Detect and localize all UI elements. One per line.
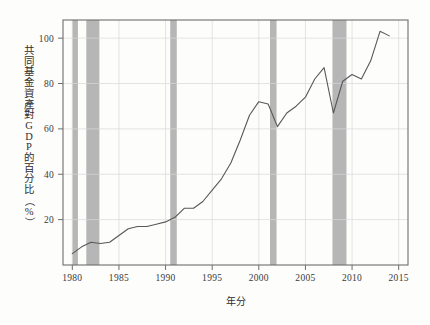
x-tick-label: 2005 [295,273,315,283]
y-tick-label: 40 [44,170,54,180]
gridlines [63,20,408,265]
chart-figure: 共 同 基 金 資 產 對 G D P 的 百 分 比 （ % ） 204060… [0,0,430,325]
x-tick-label: 2015 [389,273,409,283]
y-axis-title: 共 同 基 金 資 產 對 G D P 的 百 分 比 （ % ） [20,46,38,256]
chart-canvas: 2040608010019801985199019952000200520102… [0,0,430,325]
x-tick-label: 1985 [109,273,129,283]
x-tick-label: 1995 [202,273,222,283]
x-axis-title: 年分 [226,295,246,307]
y-tick-label: 20 [44,215,54,225]
y-tick-label: 60 [44,124,54,134]
recession-band [72,20,78,265]
y-axis-title-char: （ [24,196,35,206]
y-axis-title-char: ） [24,218,35,228]
y-tick-label: 80 [44,79,54,89]
x-tick-label: 1990 [155,273,175,283]
plot-frame [63,20,408,265]
recession-band [170,20,177,265]
recession-band [270,20,277,265]
recession-band [332,20,346,265]
y-axis-title-char: 比 [24,185,34,196]
y-tick-label: 100 [39,34,54,44]
x-tick-label: 1980 [62,273,82,283]
y-axis-title-char: % [25,207,34,218]
axis-ticks [58,38,399,270]
plot-border [63,20,408,265]
x-tick-label: 2010 [342,273,362,283]
y-axis-title-char: 資 [24,89,34,100]
x-tick-label: 2000 [249,273,269,283]
recession-band [86,20,99,265]
